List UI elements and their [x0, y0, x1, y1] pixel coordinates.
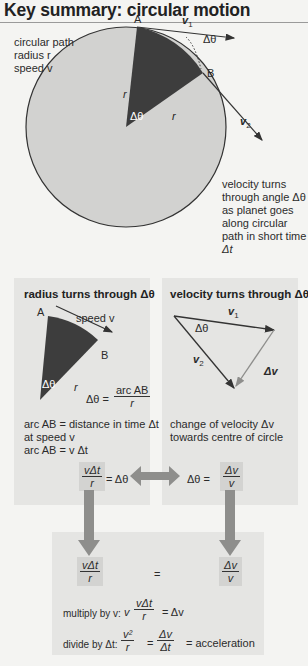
v1-label: v1 [228, 305, 239, 322]
v1-arrow [174, 316, 274, 330]
velocity-note-line: along circular [222, 217, 287, 230]
note-line: at speed v [24, 431, 75, 444]
speed-label: speed v [76, 312, 115, 325]
point-a-label: A [37, 306, 44, 319]
note-line: arc AB = distance in time Δt [24, 418, 159, 431]
delta-v-label: Δv [264, 365, 278, 378]
multiply-prefix: v [124, 606, 130, 619]
point-b-label: B [207, 67, 214, 80]
arc-over-r-fraction: arc AB r [114, 384, 150, 409]
acceleration-label: = acceleration [186, 637, 255, 650]
point-a-label: A [134, 13, 141, 26]
down-arrow-left-icon [78, 490, 100, 556]
equals-sign: = [154, 568, 160, 581]
v-squared-over-r-fraction: v² r [121, 628, 134, 653]
velocity-panel-title: velocity turns through Δθ [170, 288, 308, 300]
velocity-note-line: as planet goes [222, 204, 294, 217]
note-line: change of velocity Δv [170, 418, 274, 431]
circular-path-label: circular path [14, 36, 74, 49]
point-b-label: B [101, 349, 108, 362]
formula-lhs: Δθ = [86, 393, 109, 406]
divide-label: divide by Δt: [63, 638, 117, 651]
radius-r-label-2: r [172, 110, 176, 123]
velocity-note-line: Δt [222, 243, 232, 256]
delta-theta-label: Δθ [203, 33, 216, 46]
v-dt-over-r-fraction: vΔt r [79, 462, 105, 491]
delta-theta-label: Δθ [195, 322, 208, 335]
note-line: arc AB = v Δt [24, 444, 88, 457]
velocity-note-line: velocity turns [222, 178, 286, 191]
multiply-label: multiply by v: [63, 607, 121, 620]
result-right-fraction: Δv v [219, 557, 242, 586]
result-left-fraction: vΔt r [77, 557, 103, 586]
radius-label: radius r [14, 49, 51, 62]
radius-label: r [74, 381, 78, 394]
sector-angle-label: Δθ [130, 110, 143, 123]
sector-angle-label: Δθ [42, 378, 55, 391]
double-arrow-icon [130, 464, 180, 488]
radius-r-label-1: r [123, 88, 127, 101]
delta-theta-equals: Δθ = [187, 473, 210, 486]
equals-delta-theta: = Δθ [106, 473, 128, 486]
v2-label: v2 [193, 353, 204, 370]
speed-label: speed v [14, 62, 53, 75]
radius-panel-title: radius turns through Δθ [24, 288, 155, 300]
velocity-note-line: path in short time [222, 230, 306, 243]
note-line: towards centre of circle [170, 431, 283, 444]
v1-label: v1 [182, 14, 193, 31]
dv-over-v-fraction: Δv v [220, 462, 243, 491]
multiply-fraction: vΔt r [134, 597, 154, 622]
down-arrow-right-icon [219, 490, 241, 556]
equals-sign: = [147, 637, 153, 650]
page-title: Key summary: circular motion [4, 0, 250, 21]
velocity-note-line: through angle Δθ [222, 191, 306, 204]
v2-label: v2 [240, 115, 251, 132]
multiply-rhs: = Δv [162, 606, 184, 619]
dv-over-dt-fraction: Δv Δt [157, 628, 174, 653]
